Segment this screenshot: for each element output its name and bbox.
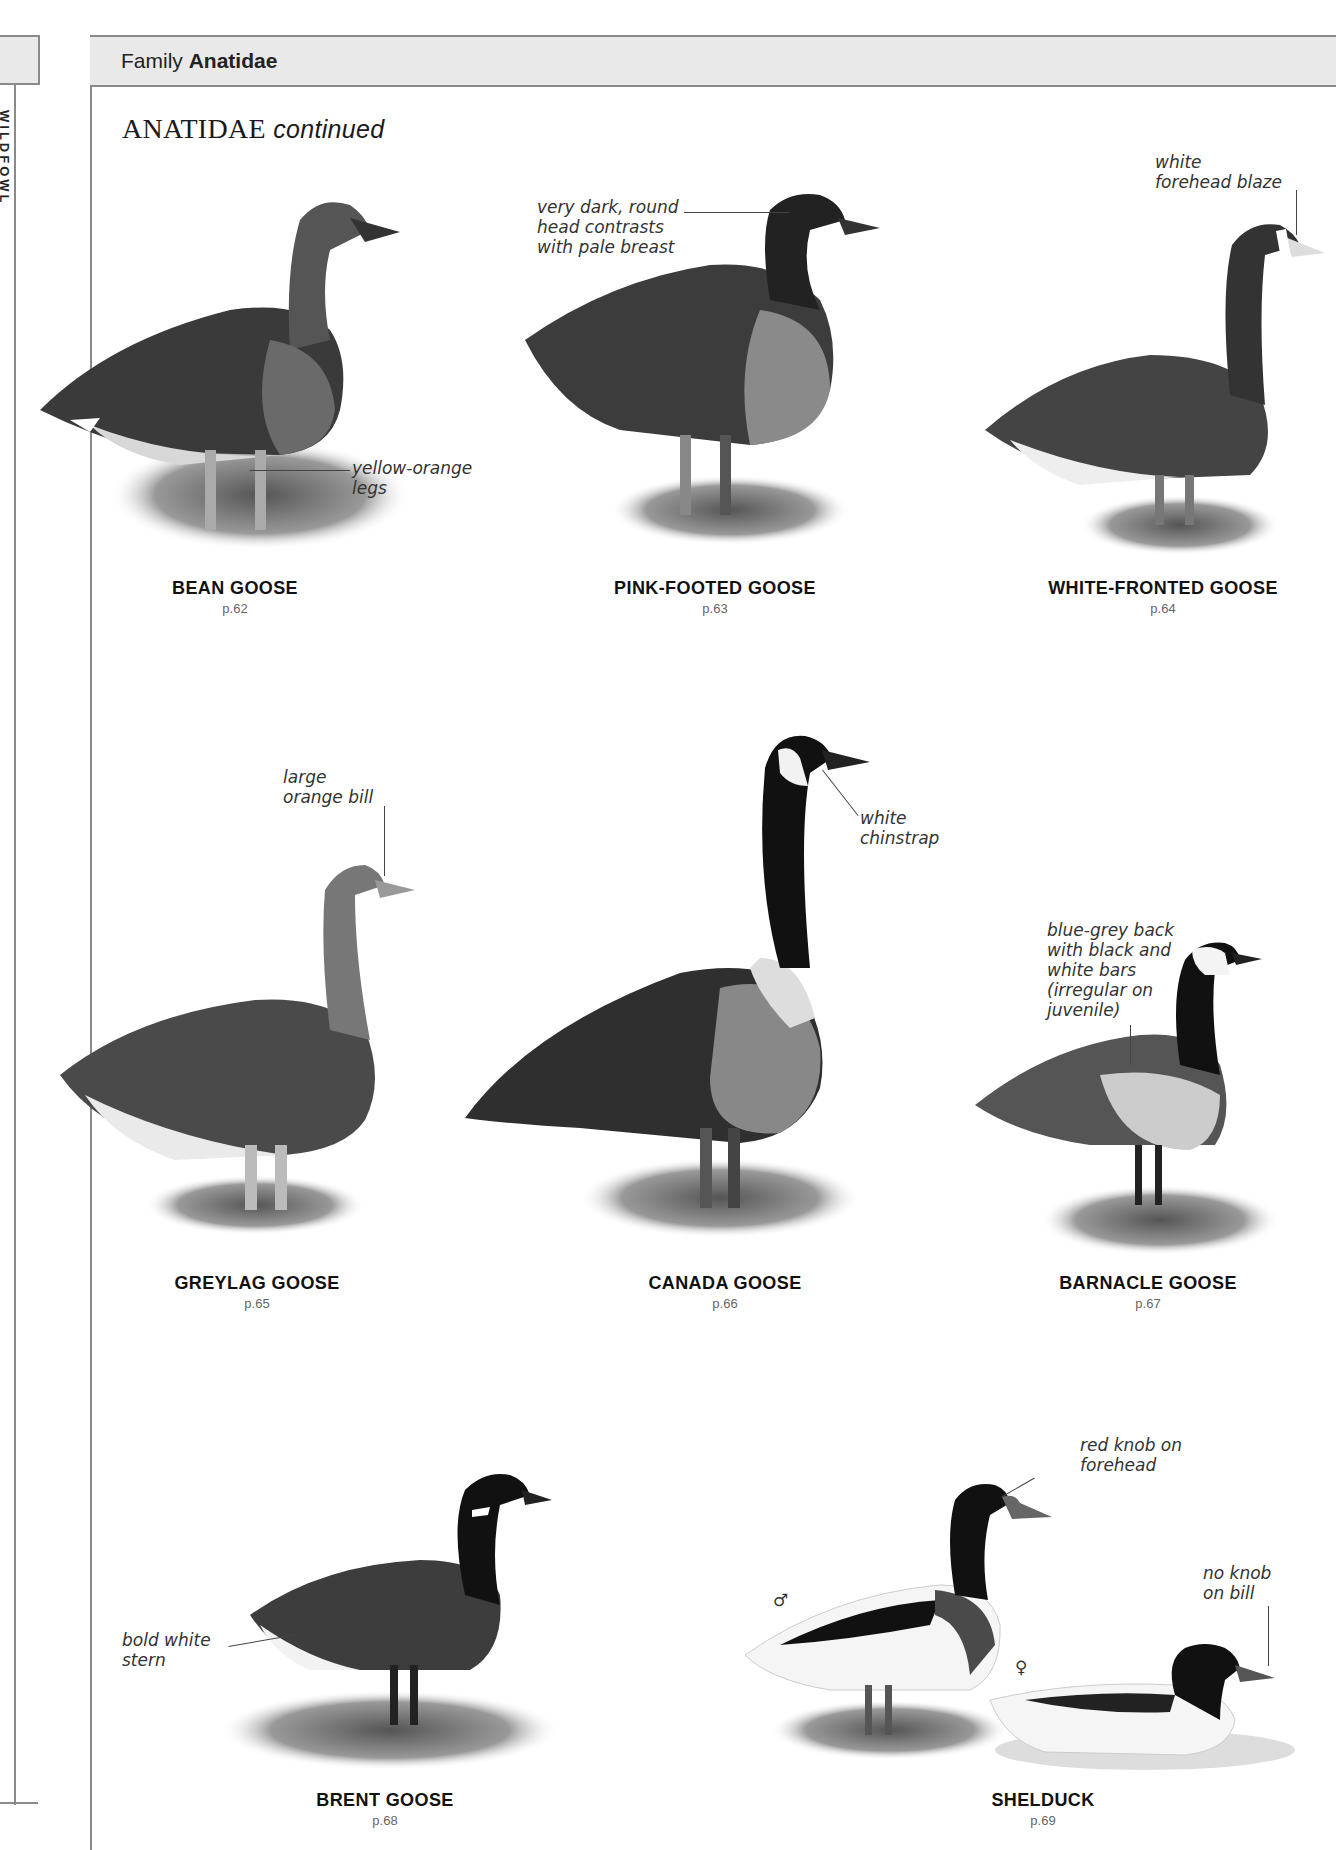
previous-page-rule [14, 85, 16, 1805]
species-name: WHITE-FRONTED GOOSE [1003, 578, 1323, 599]
previous-page-footer-rule [0, 1802, 38, 1804]
barnacle-back-leader [1130, 1025, 1131, 1065]
family-header-bar: Family Anatidae [90, 35, 1336, 87]
whitefront-blaze-leader [1296, 190, 1297, 235]
species-caption-pink-footed-goose: PINK-FOOTED GOOSE p.63 [555, 578, 875, 616]
species-caption-shelduck: SHELDUCK p.69 [883, 1790, 1203, 1828]
annotation-brent-stern: bold white stern [122, 1630, 211, 1670]
species-page-ref: p.68 [225, 1813, 545, 1828]
species-page-ref: p.69 [883, 1813, 1203, 1828]
canada-goose-illustration [460, 728, 900, 1238]
bean-legs-leader [250, 470, 350, 471]
species-page-ref: p.66 [565, 1296, 885, 1311]
previous-page-side-label: WILDFOWL [0, 110, 16, 240]
species-name: CANADA GOOSE [565, 1273, 885, 1294]
section-title-suffix: continued [273, 115, 384, 143]
species-name: BRENT GOOSE [225, 1790, 545, 1811]
shelduck-bill-leader [1268, 1606, 1269, 1666]
species-name: PINK-FOOTED GOOSE [555, 578, 875, 599]
shelduck-female-illustration [985, 1640, 1305, 1770]
species-page-ref: p.67 [988, 1296, 1308, 1311]
species-caption-barnacle-goose: BARNACLE GOOSE p.67 [988, 1273, 1308, 1311]
species-name: BARNACLE GOOSE [988, 1273, 1308, 1294]
white-fronted-goose-illustration [980, 215, 1336, 555]
greylag-goose-illustration [55, 840, 425, 1240]
annotation-barnacle-back: blue-grey back with black and white bars… [1047, 920, 1174, 1020]
species-page-ref: p.63 [555, 601, 875, 616]
brent-goose-illustration [200, 1465, 580, 1775]
species-page-ref: p.64 [1003, 601, 1323, 616]
species-caption-greylag-goose: GREYLAG GOOSE p.65 [97, 1273, 417, 1311]
species-name: GREYLAG GOOSE [97, 1273, 417, 1294]
family-name: Anatidae [189, 49, 278, 72]
section-title: ANATIDAE continued [122, 113, 384, 145]
species-caption-bean-goose: BEAN GOOSE p.62 [75, 578, 395, 616]
previous-page-header [0, 35, 40, 85]
pinkfoot-head-leader [684, 212, 789, 213]
species-caption-white-fronted-goose: WHITE-FRONTED GOOSE p.64 [1003, 578, 1323, 616]
species-page-ref: p.65 [97, 1296, 417, 1311]
female-symbol: ♀ [1015, 1657, 1027, 1677]
annotation-shelduck-female-bill: no knob on bill [1203, 1563, 1271, 1603]
annotation-bean-legs: yellow-orange legs [352, 458, 472, 498]
species-caption-brent-goose: BRENT GOOSE p.68 [225, 1790, 545, 1828]
species-name: SHELDUCK [883, 1790, 1203, 1811]
annotation-greylag-bill: large orange bill [283, 767, 373, 807]
annotation-shelduck-male-knob: red knob on forehead [1080, 1435, 1182, 1475]
annotation-canada-chinstrap: white chinstrap [860, 808, 939, 848]
species-page-ref: p.62 [75, 601, 395, 616]
male-symbol: ♂ [773, 1590, 788, 1610]
species-name: BEAN GOOSE [75, 578, 395, 599]
annotation-whitefront-blaze: white forehead blaze [1155, 152, 1282, 192]
family-label: Family Anatidae [121, 49, 277, 73]
annotation-pinkfoot-head: very dark, round head contrasts with pal… [537, 197, 679, 257]
greylag-bill-leader [384, 806, 385, 876]
species-caption-canada-goose: CANADA GOOSE p.66 [565, 1273, 885, 1311]
